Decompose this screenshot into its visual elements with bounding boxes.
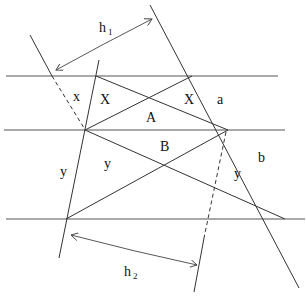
label-h1-subscript: 1: [108, 27, 113, 37]
label-h1: h: [99, 20, 106, 35]
label-B: B: [160, 139, 169, 154]
h2-arrow-left: [71, 235, 135, 251]
h1-arrow-lower: [56, 44, 104, 70]
label-y-outer: y: [60, 164, 67, 179]
label-b: b: [258, 150, 265, 165]
label-x-small: x: [73, 89, 80, 104]
label-y-inner: y: [104, 156, 111, 171]
label-a: a: [217, 92, 224, 107]
label-X-right: X: [184, 92, 194, 107]
diagonal-top-left-to-mid-right: [96, 76, 228, 130]
label-y-right: y: [234, 166, 241, 181]
diagonal-mid-left-to-bottom-right: [85, 130, 285, 219]
right-transversal: [150, 5, 299, 288]
left-slant-line: [30, 35, 52, 76]
parallel-lines-diagram: h 1 h 2 x X X A B a b y y y: [0, 0, 306, 296]
diagram-svg: h 1 h 2 x X X A B a b y y y: [0, 0, 306, 296]
diagonal-mid-right-to-bottom-left: [66, 130, 228, 219]
label-X-left: X: [100, 92, 110, 107]
h2-arrow-right: [135, 251, 197, 265]
label-h2-subscript: 2: [133, 271, 138, 281]
label-h2: h: [124, 264, 131, 279]
label-A: A: [146, 110, 157, 125]
right-dashed-line: [204, 132, 226, 238]
